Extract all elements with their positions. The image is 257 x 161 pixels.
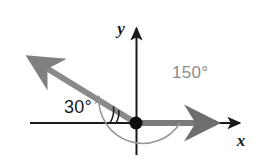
origin-point [130, 117, 143, 130]
angle-30-label: 30° [64, 97, 92, 117]
y-axis-label: y [115, 19, 125, 38]
axes-group [30, 28, 240, 155]
angle-figure-container: y x 150° 30° [0, 0, 257, 161]
angle-150-label: 150° [172, 63, 208, 82]
angle-diagram: y x 150° 30° [0, 0, 257, 161]
x-axis-label: x [236, 131, 246, 150]
